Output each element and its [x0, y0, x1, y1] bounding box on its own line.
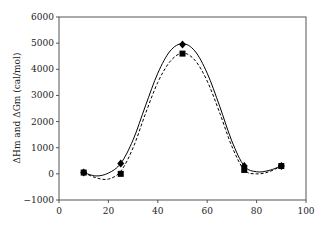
series-line-dhm — [84, 44, 282, 176]
y-axis-title: ΔHm and ΔGm (cal/mol) — [12, 53, 22, 164]
y-tick-label: 0 — [48, 169, 54, 179]
marker-square-dgm — [118, 171, 124, 177]
marker-square-dgm — [180, 51, 186, 57]
y-tick-label: 3000 — [31, 90, 54, 100]
y-axis: −10000100020003000400050006000 — [24, 12, 59, 205]
marker-square-dgm — [278, 163, 284, 169]
y-tick-label: 6000 — [31, 12, 54, 22]
y-tick-label: 5000 — [31, 38, 54, 48]
x-tick-label: 100 — [297, 206, 314, 216]
marker-diamond-dhm — [179, 40, 186, 48]
marker-square-dgm — [241, 167, 247, 173]
x-tick-label: 20 — [103, 206, 115, 216]
x-tick-label: 60 — [201, 206, 213, 216]
chart: −10000100020003000400050006000 020406080… — [0, 0, 330, 227]
x-tick-label: 0 — [56, 206, 62, 216]
x-tick-label: 80 — [251, 206, 263, 216]
x-axis: 020406080100 — [56, 200, 315, 216]
y-tick-label: −1000 — [24, 195, 55, 205]
y-tick-label: 4000 — [31, 64, 54, 74]
series-markers — [80, 40, 285, 176]
series-lines — [84, 44, 282, 180]
x-tick-label: 40 — [152, 206, 164, 216]
y-tick-label: 1000 — [31, 143, 54, 153]
y-tick-label: 2000 — [31, 117, 54, 127]
marker-square-dgm — [81, 170, 87, 176]
series-line-dgm — [84, 53, 282, 179]
